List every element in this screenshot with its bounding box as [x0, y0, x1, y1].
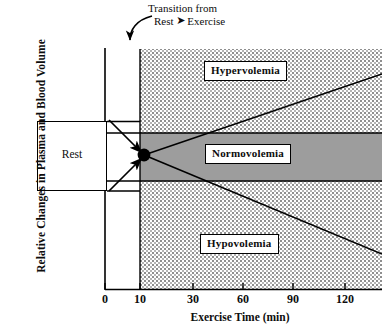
x-tick-label-60: 60 — [223, 292, 263, 307]
y-axis-title: Relative Changes in Plasma and Blood Vol… — [35, 11, 47, 301]
transition-title-exercise: Exercise — [187, 15, 225, 27]
normovolemia-label-box: Normovolemia — [205, 144, 291, 164]
transition-title-rest: Rest — [154, 15, 174, 27]
lower-converging-arrow — [109, 159, 141, 191]
transition-title: Transition from Rest ➤ Exercise — [148, 2, 318, 28]
rest-box: Rest — [37, 121, 107, 191]
x-tick-label-120: 120 — [325, 292, 365, 307]
rest-box-label: Rest — [38, 148, 106, 160]
x-tick-label-10: 10 — [120, 292, 160, 307]
hypovolemia-label-box: Hypovolemia — [200, 234, 279, 254]
right-arrow-icon: ➤ — [176, 14, 184, 27]
transition-title-line1: Transition from — [148, 2, 217, 14]
figure-container: Rest Hypervolemia Normovolemia Hypovolem… — [0, 0, 382, 333]
hypervolemia-label-box: Hypervolemia — [204, 61, 287, 81]
hypervolemia-label: Hypervolemia — [211, 64, 280, 76]
upper-converging-arrow — [109, 120, 141, 152]
x-tick-label-0: 0 — [85, 292, 125, 307]
x-axis-title: Exercise Time (min) — [150, 311, 330, 323]
x-tick-label-90: 90 — [273, 292, 313, 307]
hypovolemia-label: Hypovolemia — [207, 237, 272, 249]
convergence-point-dot — [138, 149, 151, 162]
normovolemia-label: Normovolemia — [212, 147, 284, 159]
x-tick-label-30: 30 — [173, 292, 213, 307]
